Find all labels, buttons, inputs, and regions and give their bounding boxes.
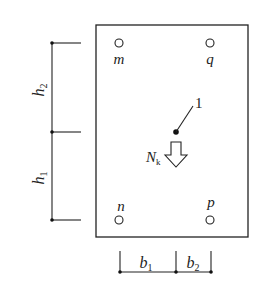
dim-dot-icon: [50, 41, 54, 45]
dim-dot-icon: [209, 270, 213, 274]
dim-label-b1: b1: [140, 254, 153, 273]
pile-m-icon: [115, 39, 123, 47]
dim-dot-icon: [50, 218, 54, 222]
leader-line: [176, 106, 193, 132]
dim-dot-icon: [118, 270, 122, 274]
centroid-label: 1: [195, 95, 203, 111]
label-m: m: [114, 51, 125, 67]
load-label: Nk: [145, 149, 161, 167]
dim-dot-icon: [174, 270, 178, 274]
label-p: p: [206, 194, 215, 210]
label-q: q: [206, 51, 214, 67]
pile-q-icon: [206, 39, 214, 47]
pile-cap-diagram: m q n p 1 Nk h2 h1 b1 b2: [0, 0, 260, 285]
dim-dot-icon: [50, 130, 54, 134]
dim-label-b2: b2: [187, 254, 200, 273]
label-n: n: [117, 198, 125, 214]
pile-n-icon: [115, 216, 123, 224]
pile-p-icon: [206, 216, 214, 224]
dim-label-h2: h2: [30, 84, 49, 97]
load-arrow-icon: [165, 142, 187, 167]
dim-label-h1: h1: [30, 172, 49, 185]
